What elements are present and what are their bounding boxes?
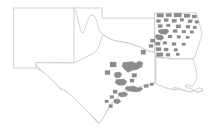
county-highlight[interactable] [167, 24, 171, 27]
county-highlight[interactable] [174, 13, 182, 17]
county-highlight[interactable] [150, 83, 154, 86]
county-highlight[interactable] [176, 25, 181, 28]
county-highlight[interactable] [186, 25, 190, 28]
county-highlight[interactable] [141, 50, 146, 54]
county-highlight[interactable] [109, 105, 113, 108]
county-highlight[interactable] [176, 53, 179, 56]
county-highlight[interactable] [156, 48, 161, 51]
county-highlight[interactable] [158, 25, 162, 28]
county-highlight[interactable] [180, 18, 184, 21]
county-highlight[interactable] [113, 90, 117, 93]
county-highlight[interactable] [168, 35, 172, 38]
county-highlight[interactable] [132, 74, 137, 78]
county-highlight[interactable] [184, 14, 190, 17]
state-outline-new-mexico[interactable] [14, 8, 74, 68]
county-highlight[interactable] [110, 96, 114, 99]
county-highlight[interactable] [156, 42, 161, 45]
county-highlight[interactable] [166, 14, 172, 17]
county-highlight[interactable] [182, 30, 186, 33]
county-highlight[interactable] [157, 14, 164, 18]
county-highlight[interactable] [166, 53, 170, 56]
county-highlight[interactable] [174, 49, 178, 52]
county-highlight[interactable] [163, 42, 167, 45]
map-canvas[interactable] [0, 0, 216, 133]
county-highlight[interactable] [149, 45, 153, 48]
county-highlight[interactable] [173, 30, 177, 33]
county-highlight[interactable] [164, 19, 168, 22]
county-highlight[interactable] [188, 20, 192, 23]
county-highlight[interactable] [192, 15, 197, 18]
state-outlines-layer [14, 8, 203, 123]
county-highlight[interactable] [105, 100, 108, 103]
county-highlight[interactable] [177, 36, 181, 39]
county-highlight[interactable] [157, 53, 164, 57]
county-highlight[interactable] [186, 36, 189, 39]
county-highlight[interactable] [172, 19, 177, 22]
county-highlight[interactable] [144, 85, 148, 88]
county-highlight[interactable] [172, 43, 176, 46]
county-highlight[interactable] [182, 43, 186, 46]
county-highlight[interactable] [195, 21, 199, 24]
county-highlight[interactable] [110, 62, 116, 67]
map-figure [0, 0, 216, 133]
county-highlight[interactable] [193, 26, 197, 29]
county-highlight[interactable] [190, 31, 194, 34]
county-highlight[interactable] [157, 20, 161, 23]
county-highlight[interactable] [105, 71, 110, 75]
county-highlight[interactable] [130, 79, 134, 82]
county-highlight[interactable] [151, 39, 156, 42]
county-highlight[interactable] [164, 48, 168, 51]
